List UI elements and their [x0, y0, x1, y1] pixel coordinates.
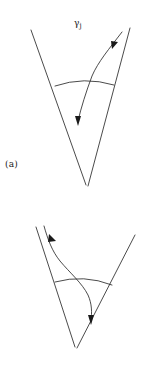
left-cone-boundary	[31, 30, 86, 185]
transversal-arc	[55, 279, 112, 285]
trajectory-curve	[78, 32, 122, 121]
gamma-j-label-a: γj	[74, 19, 82, 30]
figure-panel-a: γj (a)	[0, 0, 148, 196]
panel-caption-a: (a)	[5, 160, 18, 169]
entry-arrow	[48, 234, 56, 242]
exit-arrow	[88, 315, 94, 325]
gamma-subscript: j	[79, 22, 81, 30]
exit-arrow	[75, 116, 81, 126]
figure-panel-b: γj (b)	[0, 195, 148, 391]
figure-page: γj (a) γj (b)	[0, 0, 148, 391]
transversal-arc	[55, 81, 114, 86]
left-cone-boundary	[36, 227, 75, 347]
right-cone-boundary	[88, 28, 130, 186]
panel-b-drawing	[0, 195, 148, 391]
entry-arrow	[111, 41, 118, 49]
